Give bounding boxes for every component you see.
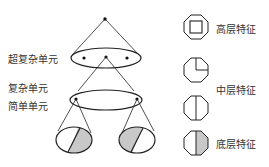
octagon-half-line-icon xyxy=(184,96,208,120)
octagon-half-shaded-icon xyxy=(184,131,208,155)
octagon-quarter-icon xyxy=(184,58,208,82)
legend-label-high-level: 高层特征 xyxy=(216,21,256,36)
complex-unit xyxy=(70,90,142,110)
cone-simple-left xyxy=(58,99,91,133)
label-super-complex-unit: 超复杂单元 xyxy=(8,51,58,66)
legend-label-low-level: 底层特征 xyxy=(216,136,256,151)
cone-complex-to-super xyxy=(78,57,134,91)
super-complex-unit xyxy=(71,48,141,68)
label-complex-unit: 复杂单元 xyxy=(8,80,48,95)
simple-unit-right xyxy=(115,125,155,156)
top-node xyxy=(103,17,106,20)
legend-label-mid-level: 中层特征 xyxy=(216,82,256,97)
cone-super-to-top xyxy=(72,19,139,55)
label-simple-unit: 简单单元 xyxy=(8,98,48,113)
simple-unit-left xyxy=(56,125,100,156)
octagon-square-icon xyxy=(184,15,208,39)
